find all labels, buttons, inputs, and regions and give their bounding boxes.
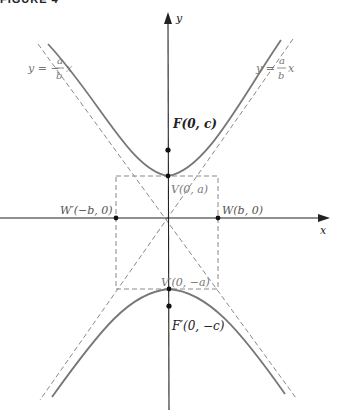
y-axis-label: y (175, 12, 183, 25)
svg-text:a: a (279, 55, 285, 66)
asymptote-positive (40, 39, 293, 400)
w-left-label: W′(−b, 0) (60, 204, 113, 217)
vertex-bottom-label: V′(0, −a) (161, 276, 210, 289)
asymptote-negative (38, 44, 296, 398)
focus-bottom-label: F′(0, −c) (171, 319, 225, 333)
focus-top-point (165, 147, 170, 152)
svg-text:x: x (288, 62, 295, 75)
focus-top-label: F(0, c) (172, 117, 217, 131)
w-right-label: W(b, 0) (222, 204, 263, 217)
svg-text:b: b (56, 70, 62, 81)
y-axis (168, 22, 169, 410)
svg-text:y = −: y = − (27, 62, 60, 75)
x-axis-arrow-icon (318, 214, 330, 222)
svg-text:x: x (66, 62, 73, 75)
y-axis-arrow-icon (164, 12, 172, 24)
svg-text:y =: y = (255, 62, 275, 75)
hyperbola-diagram: y x y = − a b x y = a b x F(0, c) V(0, a… (0, 0, 339, 420)
w-right-point (216, 216, 221, 221)
vertex-top-label: V(0, a) (171, 183, 208, 196)
svg-text:a: a (57, 55, 63, 66)
w-left-point (114, 216, 119, 221)
asymptote-left-label: y = − a b x (27, 55, 73, 81)
focus-bottom-point (166, 303, 171, 308)
vertex-top-point (166, 174, 171, 179)
asymptote-right-label: y = a b x (255, 55, 295, 81)
x-axis-label: x (320, 224, 327, 237)
hyperbola-upper-branch (48, 40, 281, 176)
svg-text:b: b (278, 70, 284, 81)
